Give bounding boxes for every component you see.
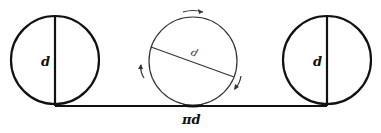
rolling-circle-diagram: d d d πd — [0, 0, 381, 133]
right-circle: d — [283, 16, 371, 106]
left-diameter-label: d — [41, 54, 50, 69]
left-circle: d — [11, 16, 99, 106]
rotation-arrow-left — [138, 64, 144, 78]
circumference-label: πd — [181, 112, 201, 127]
middle-circle: d — [149, 17, 237, 107]
rotation-arrow-top — [183, 9, 203, 14]
right-diameter-label: d — [313, 54, 322, 69]
middle-diameter-label: d — [189, 46, 199, 59]
rotation-arrow-right — [234, 76, 241, 90]
